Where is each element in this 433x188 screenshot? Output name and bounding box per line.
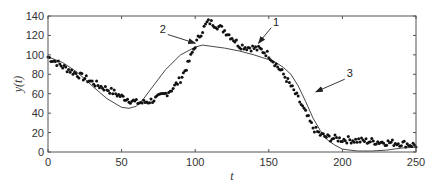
y-tick-label: 80 (32, 68, 44, 80)
y-tick-label: 120 (26, 29, 44, 41)
y-tick-label: 60 (32, 88, 44, 100)
x-tick-label: 0 (45, 156, 51, 168)
annotations: 123 (160, 16, 353, 92)
y-tick-label: 140 (26, 10, 44, 22)
chart: 020406080100120140 050100150200250 123 t… (0, 0, 433, 188)
x-tick-label: 50 (115, 156, 127, 168)
y-tick-label: 40 (32, 107, 44, 119)
y-tick-label: 100 (26, 49, 44, 61)
x-tick-label: 200 (333, 156, 351, 168)
x-tick-label: 150 (260, 156, 278, 168)
x-axis-ticks: 050100150200250 (45, 16, 425, 168)
series-1-markers (47, 18, 418, 148)
annotation-label: 2 (160, 23, 166, 35)
y-axis-ticks: 020406080100120140 (26, 10, 416, 158)
y-axis-label: y(t) (11, 76, 25, 94)
annotation-label: 1 (273, 16, 279, 28)
y-tick-label: 0 (38, 146, 44, 158)
annotation-label: 3 (347, 67, 353, 79)
x-tick-label: 250 (407, 156, 425, 168)
series-3-line (48, 45, 416, 151)
y-tick-label: 20 (32, 127, 44, 139)
x-tick-label: 100 (186, 156, 204, 168)
x-axis-label: t (230, 169, 234, 183)
plot-frame (48, 16, 416, 152)
